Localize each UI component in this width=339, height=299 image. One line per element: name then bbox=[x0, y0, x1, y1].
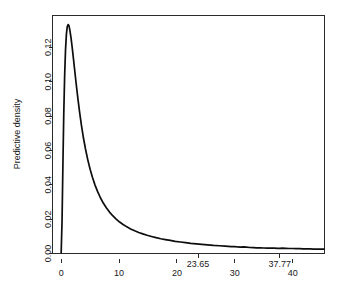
y-axis-title: Predictive density bbox=[12, 98, 22, 169]
x-axis-tick-group bbox=[61, 259, 292, 263]
x-tick-label-1: 10 bbox=[114, 268, 124, 278]
x-marker-label-0: 23.65 bbox=[187, 259, 210, 269]
y-tick-label-1: 0.02 bbox=[43, 210, 53, 228]
x-axis-tick-labels: 010203040 bbox=[59, 268, 298, 278]
y-axis-title-group: Predictive density bbox=[12, 98, 22, 169]
y-tick-label-2: 0.04 bbox=[43, 176, 53, 194]
plot-frame bbox=[53, 16, 325, 254]
x-axis-marker-tick-group bbox=[198, 254, 280, 258]
density-plot-figure: 0.000.020.040.060.080.100.12 010203040 2… bbox=[0, 0, 339, 299]
x-marker-label-1: 37.77 bbox=[268, 259, 291, 269]
y-tick-label-6: 0.12 bbox=[43, 39, 53, 57]
x-tick-label-2: 20 bbox=[172, 268, 182, 278]
predictive-density-curve bbox=[61, 25, 324, 253]
x-tick-label-3: 30 bbox=[230, 268, 240, 278]
x-tick-label-0: 0 bbox=[59, 268, 64, 278]
y-axis-tick-labels: 0.000.020.040.060.080.100.12 bbox=[43, 39, 53, 263]
x-tick-label-4: 40 bbox=[288, 268, 298, 278]
y-tick-label-3: 0.06 bbox=[43, 142, 53, 160]
y-tick-label-4: 0.08 bbox=[43, 107, 53, 125]
series-group bbox=[61, 25, 324, 253]
y-tick-label-5: 0.10 bbox=[43, 73, 53, 91]
y-tick-label-0: 0.00 bbox=[43, 245, 53, 263]
chart-canvas: 0.000.020.040.060.080.100.12 010203040 2… bbox=[0, 0, 339, 299]
